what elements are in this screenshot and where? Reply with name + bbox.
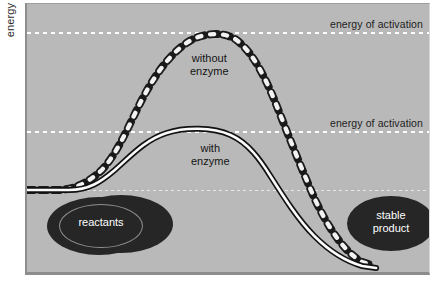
enzyme-energy-diagram: energy energy of activation energy of ac…: [0, 0, 433, 290]
reactants-label: reactants: [61, 216, 141, 229]
curve-label-without-enzyme-line1: without: [190, 52, 229, 65]
curve-label-with-enzyme-line1: with: [191, 142, 230, 155]
stable-product-label-line2: product: [347, 222, 429, 235]
y-axis-label: energy: [4, 0, 16, 48]
reactants-molecule-group: reactants: [45, 195, 175, 257]
activation-energy-label-high: energy of activation: [330, 18, 423, 30]
stable-product-label-line1: stable: [347, 209, 429, 222]
plot-area: energy of activation energy of activatio…: [25, 3, 430, 275]
curve-label-with-enzyme: with enzyme: [191, 142, 230, 168]
stable-product-molecule-group: stable product: [347, 196, 429, 254]
activation-energy-label-low: energy of activation: [330, 117, 423, 129]
curve-label-without-enzyme: without enzyme: [190, 52, 229, 78]
stable-product-label: stable product: [347, 209, 429, 234]
curve-label-without-enzyme-line2: enzyme: [190, 65, 229, 78]
plot-inner: energy of activation energy of activatio…: [27, 4, 429, 272]
curve-label-with-enzyme-line2: enzyme: [191, 155, 230, 168]
